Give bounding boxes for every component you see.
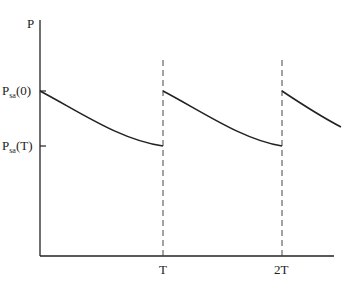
chart-plot	[0, 0, 345, 284]
decay-curve-2	[163, 91, 282, 146]
decay-curve-1	[40, 91, 163, 146]
x-tick-label-2T: 2T	[274, 263, 288, 276]
x-tick-label-T: T	[159, 263, 167, 276]
y-tick-label-psaT: Psa(T)	[2, 139, 33, 157]
y-tick-label-psa0: Psa(0)	[2, 84, 31, 102]
y-axis-label: P	[27, 17, 34, 30]
chart: P Psa(0) Psa(T) T 2T	[0, 0, 345, 284]
decay-curve-3	[282, 91, 341, 127]
